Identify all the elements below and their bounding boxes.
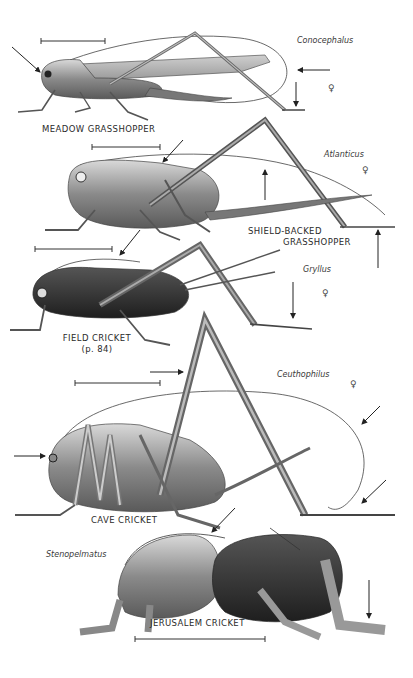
illustration-plate: Conocephalus ♀ MEADOW GRASSHOPPER Atlant… <box>0 0 413 678</box>
genus-atlanticus: Atlanticus <box>324 150 364 159</box>
label-jerusalem-cricket: JERUSALEM CRICKET <box>150 618 245 628</box>
female-symbol: ♀ <box>362 165 369 175</box>
female-symbol: ♀ <box>322 288 329 298</box>
female-symbol: ♀ <box>350 379 357 389</box>
label-meadow-grasshopper: MEADOW GRASSHOPPER <box>42 124 155 134</box>
genus-stenopelmatus: Stenopelmatus <box>46 550 106 559</box>
meadow-grasshopper-figure <box>12 33 330 120</box>
genus-conocephalus: Conocephalus <box>297 36 353 45</box>
genus-gryllus: Gryllus <box>303 265 331 274</box>
label-shield-backed-line1: SHIELD-BACKED <box>248 226 322 236</box>
label-cave-cricket: CAVE CRICKET <box>91 515 157 525</box>
label-shield-backed-line2: GRASSHOPPER <box>283 237 351 247</box>
label-field-cricket: FIELD CRICKET <box>52 333 142 343</box>
female-symbol: ♀ <box>328 83 335 93</box>
page-reference: (p. 84) <box>52 344 142 354</box>
field-cricket-figure <box>10 230 312 345</box>
genus-ceuthophilus: Ceuthophilus <box>277 370 330 379</box>
